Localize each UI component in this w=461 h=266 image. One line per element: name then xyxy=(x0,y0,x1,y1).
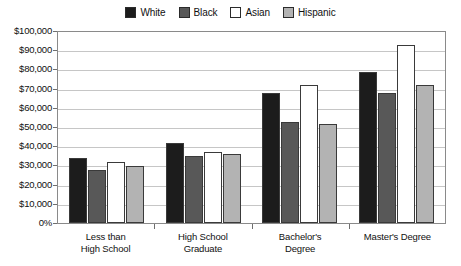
legend-swatch-icon xyxy=(230,7,241,18)
legend-item-white[interactable]: White xyxy=(125,7,165,18)
y-axis-tick-label: $90,000 xyxy=(19,45,52,55)
x-axis-category-line: Graduate xyxy=(154,243,251,255)
x-axis-category-label: High SchoolGraduate xyxy=(154,231,251,255)
y-axis-tick-label: $50,000 xyxy=(19,122,52,132)
x-axis-tick-mark xyxy=(154,224,155,229)
bar-white-1[interactable] xyxy=(69,158,87,223)
x-axis-category-label: Master's Degree xyxy=(349,231,446,243)
bar-hispanic-3[interactable] xyxy=(319,124,337,223)
x-axis-category-line: High School xyxy=(57,243,154,255)
bars-layer xyxy=(58,32,445,223)
x-axis-tick-mark xyxy=(252,224,253,229)
bar-group xyxy=(58,32,155,223)
legend-item-label: Black xyxy=(194,7,218,18)
x-axis-tick-mark xyxy=(349,224,350,229)
legend-swatch-icon xyxy=(125,7,136,18)
y-axis-tick-label: $60,000 xyxy=(19,103,52,113)
bar-group xyxy=(348,32,445,223)
x-axis-category-line: High School xyxy=(154,231,251,243)
bar-hispanic-4[interactable] xyxy=(416,85,434,223)
legend-item-asian[interactable]: Asian xyxy=(230,7,270,18)
x-axis-category-line: Degree xyxy=(252,243,349,255)
y-axis-tick-label: $80,000 xyxy=(19,64,52,74)
x-axis-ticks xyxy=(57,224,446,229)
legend-swatch-icon xyxy=(179,7,190,18)
x-axis-category-label: Less thanHigh School xyxy=(57,231,154,255)
legend-item-hispanic[interactable]: Hispanic xyxy=(283,7,336,18)
bar-asian-2[interactable] xyxy=(204,152,222,223)
bar-white-2[interactable] xyxy=(166,143,184,223)
y-axis-tick-label: $10,000 xyxy=(19,199,52,209)
legend-item-black[interactable]: Black xyxy=(179,7,218,18)
x-axis-category-line: Less than xyxy=(57,231,154,243)
bar-hispanic-1[interactable] xyxy=(126,166,144,223)
bar-white-4[interactable] xyxy=(359,72,377,223)
legend-item-label: Hispanic xyxy=(298,7,336,18)
chart-legend: WhiteBlackAsianHispanic xyxy=(0,4,461,20)
y-axis-tick-label: 0% xyxy=(39,218,52,228)
bar-white-3[interactable] xyxy=(262,93,280,223)
bar-asian-4[interactable] xyxy=(397,45,415,223)
legend-item-label: Asian xyxy=(245,7,270,18)
y-axis-tick-label: $100,000 xyxy=(14,26,52,36)
x-axis-labels: Less thanHigh SchoolHigh SchoolGraduateB… xyxy=(57,231,446,263)
bar-chart: WhiteBlackAsianHispanic $100,000$90,000$… xyxy=(0,0,461,266)
bar-hispanic-2[interactable] xyxy=(223,154,241,223)
bar-black-1[interactable] xyxy=(88,170,106,223)
y-axis-labels: $100,000$90,000$80,000$70,000$60,000$50,… xyxy=(0,31,52,224)
y-axis-tick-label: $20,000 xyxy=(19,180,52,190)
bar-group xyxy=(252,32,349,223)
y-axis-tick-label: $30,000 xyxy=(19,160,52,170)
y-axis-tick-label: $70,000 xyxy=(19,84,52,94)
legend-item-label: White xyxy=(140,7,165,18)
x-axis-category-line: Master's Degree xyxy=(349,231,446,243)
legend-swatch-icon xyxy=(283,7,294,18)
bar-asian-3[interactable] xyxy=(300,85,318,223)
bar-black-2[interactable] xyxy=(185,156,203,223)
y-axis-tick-label: $40,000 xyxy=(19,141,52,151)
bar-group xyxy=(155,32,252,223)
x-axis-category-line: Bachelor's xyxy=(252,231,349,243)
x-axis-category-label: Bachelor'sDegree xyxy=(252,231,349,255)
bar-asian-1[interactable] xyxy=(107,162,125,223)
bar-black-4[interactable] xyxy=(378,93,396,223)
bar-black-3[interactable] xyxy=(281,122,299,223)
